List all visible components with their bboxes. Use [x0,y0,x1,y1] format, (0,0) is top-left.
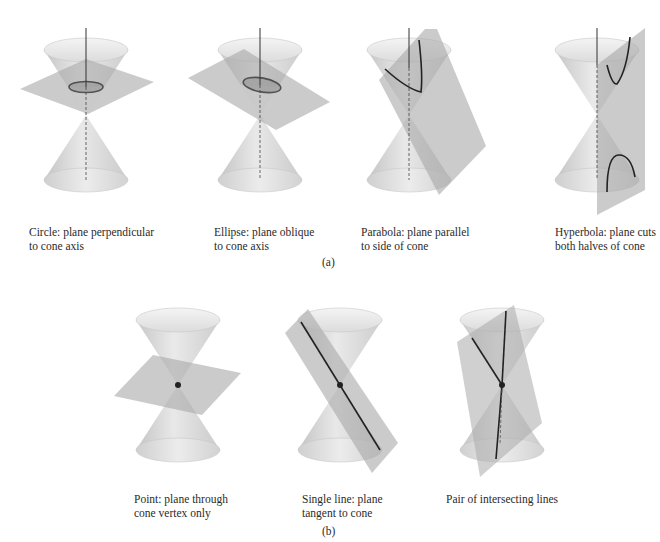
vertex-point [175,382,181,388]
caption-intersecting-lines: Pair of intersecting lines [446,492,558,506]
part-b-label: (b) [322,525,335,537]
vertex-point [499,382,505,388]
part-a-label: (a) [322,256,335,268]
conic-sections-diagram [0,0,660,542]
caption-hyperbola: Hyperbola: plane cuts both halves of con… [555,225,656,253]
caption-circle: Circle: plane perpendicular to cone axis [29,225,154,253]
circle-panel [20,28,154,192]
point-panel [114,308,241,462]
intersecting-lines-panel [457,305,544,477]
caption-ellipse: Ellipse: plane oblique to cone axis [214,225,314,253]
caption-single-line: Single line: plane tangent to cone [302,492,382,520]
caption-parabola: Parabola: plane parallel to side of cone [361,225,470,253]
single-line-panel [285,308,398,473]
vertex-point [337,382,343,388]
parabola-panel [367,28,486,195]
conic-sections-figure: Circle: plane perpendicular to cone axis… [0,0,660,542]
caption-point: Point: plane through cone vertex only [134,492,228,520]
hyperbola-panel [555,28,645,215]
ellipse-panel [188,28,330,192]
